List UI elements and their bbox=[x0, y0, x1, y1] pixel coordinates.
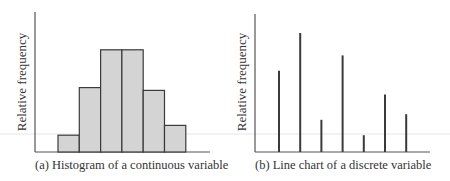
caption-a: (a) Histogram of a continuous variable bbox=[35, 158, 229, 172]
y-axis-label: Relative frequency bbox=[234, 32, 249, 131]
histogram-bar-4 bbox=[122, 50, 143, 152]
line-chart: Relative frequency (b) Line chart of a d… bbox=[234, 14, 432, 172]
y-axis-label: Relative frequency bbox=[14, 32, 29, 131]
histogram-bar-1 bbox=[58, 135, 79, 152]
histogram-bar-5 bbox=[143, 90, 164, 152]
caption-b: (b) Line chart of a discrete variable bbox=[255, 158, 432, 172]
histogram-bars bbox=[58, 50, 186, 152]
histogram-bar-2 bbox=[79, 88, 100, 152]
histogram-bar-6 bbox=[165, 125, 186, 152]
histogram-bar-3 bbox=[101, 50, 122, 152]
figure: Relative frequency (a) Histogram of a co… bbox=[0, 0, 450, 181]
histogram-chart: Relative frequency (a) Histogram of a co… bbox=[14, 12, 229, 172]
